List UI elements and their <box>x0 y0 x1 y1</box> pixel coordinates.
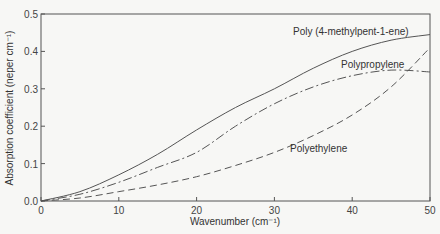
y-tick-label: 0.0 <box>24 196 38 207</box>
label-polyethylene: Polyethylene <box>290 143 348 154</box>
x-tick-label: 30 <box>269 205 281 216</box>
x-tick-label: 10 <box>113 205 125 216</box>
y-axis-label: Absorption coefficient (neper cm⁻¹) <box>4 31 15 186</box>
x-tick-label: 20 <box>191 205 203 216</box>
y-tick-label: 0.5 <box>24 9 38 20</box>
x-tick-label: 50 <box>424 205 436 216</box>
curve-1 <box>41 70 430 201</box>
x-tick-label: 40 <box>347 205 359 216</box>
label-polypropylene: Polypropylene <box>341 59 405 70</box>
absorption-chart: 010203040500.00.10.20.30.40.5 Poly (4-me… <box>0 0 440 234</box>
x-tick-label: 0 <box>38 205 44 216</box>
y-tick-label: 0.3 <box>24 84 38 95</box>
curve-2 <box>41 48 430 201</box>
y-tick-label: 0.2 <box>24 121 38 132</box>
y-tick-label: 0.4 <box>24 46 38 57</box>
label-poly4mp: Poly (4-methylpent-1-ene) <box>293 26 409 37</box>
y-tick-label: 0.1 <box>24 159 38 170</box>
x-axis-label: Wavenumber (cm⁻¹) <box>190 216 280 227</box>
axes: 010203040500.00.10.20.30.40.5 <box>24 9 436 216</box>
